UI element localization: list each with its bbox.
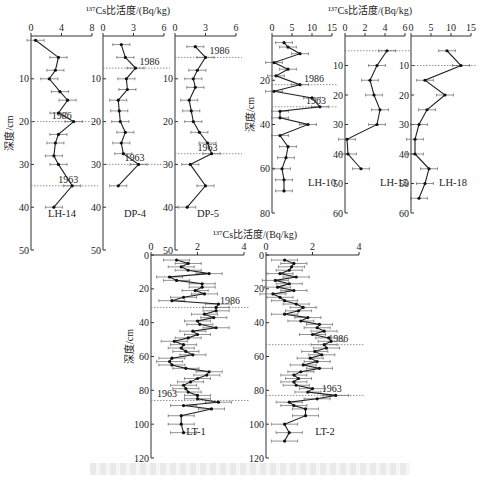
data-point <box>318 323 321 326</box>
panel-lt-1: 024020406080100120深度/cm19861963LT-1 <box>123 241 250 464</box>
data-point <box>282 189 285 192</box>
data-point <box>196 333 199 336</box>
y-tick-label: 10 <box>399 60 409 71</box>
data-point <box>292 262 295 265</box>
data-point <box>212 316 215 319</box>
data-point <box>278 272 281 275</box>
y-tick-label: 30 <box>19 159 29 170</box>
data-point <box>427 167 430 170</box>
panel-label: LH-14 <box>48 208 77 219</box>
data-point <box>306 390 309 393</box>
y-tick-label: 20 <box>260 75 270 86</box>
data-point <box>283 258 286 261</box>
data-point <box>375 123 378 126</box>
y-tick-label: 20 <box>91 116 101 127</box>
data-point <box>186 206 189 209</box>
data-point <box>71 184 74 187</box>
y-tick-label: 40 <box>254 317 264 328</box>
data-point <box>196 69 199 72</box>
data-point <box>299 319 302 322</box>
data-point <box>278 134 281 137</box>
y-tick-label: 50 <box>163 245 173 256</box>
y-tick-label: 80 <box>139 385 149 396</box>
data-point <box>57 133 60 136</box>
data-point <box>292 374 295 377</box>
data-point <box>57 56 60 59</box>
y-tick-label: 60 <box>254 351 264 362</box>
top-right-axis-title: ¹³⁷Cs比活度/(Bq/kg) <box>328 4 412 17</box>
data-point <box>302 363 305 366</box>
data-point <box>117 184 120 187</box>
y-tick-label: 40 <box>19 202 29 213</box>
y-tick-label: 10 <box>333 60 343 71</box>
data-point <box>425 108 428 111</box>
x-tick-label: 5 <box>429 22 434 33</box>
data-point <box>299 370 302 373</box>
data-point <box>192 120 195 123</box>
data-point <box>173 340 176 343</box>
data-point <box>194 86 197 89</box>
data-point <box>320 353 323 356</box>
data-point <box>182 404 185 407</box>
data-point <box>196 397 199 400</box>
data-point <box>346 152 349 155</box>
data-point <box>54 69 57 72</box>
x-tick-label: 0 <box>270 22 275 33</box>
data-point <box>272 61 275 64</box>
y-axis-label: 深度/cm <box>123 329 135 364</box>
x-tick-label: 0 <box>149 241 154 252</box>
data-point <box>201 286 204 289</box>
data-point <box>330 340 333 343</box>
x-tick-label: 0 <box>173 22 178 33</box>
data-point <box>417 197 420 200</box>
data-point <box>459 64 462 67</box>
data-point <box>208 272 211 275</box>
y-tick-label: 30 <box>91 159 101 170</box>
y-tick-label: 20 <box>399 90 409 101</box>
data-point <box>316 326 319 329</box>
data-point <box>334 394 337 397</box>
y-tick-label: 50 <box>91 245 101 256</box>
y-tick-label: 50 <box>333 178 343 189</box>
x-tick-label: 2 <box>363 22 368 33</box>
data-point <box>295 384 298 387</box>
x-tick-label: 4 <box>242 241 247 252</box>
y-tick-label: 0 <box>259 250 264 261</box>
data-point <box>217 302 220 305</box>
data-point <box>196 319 199 322</box>
data-point <box>57 163 60 166</box>
data-point <box>188 99 191 102</box>
data-point <box>198 131 201 134</box>
top-left-axis-title: ¹³⁷Cs比活度/(Bq/kg) <box>86 4 170 17</box>
y-tick-label: 100 <box>134 419 149 430</box>
x-tick-label: 6 <box>162 22 167 33</box>
data-point <box>311 333 314 336</box>
data-point <box>205 374 208 377</box>
data-point <box>288 401 291 404</box>
data-point <box>122 152 125 155</box>
data-point <box>288 282 291 285</box>
data-point <box>217 401 220 404</box>
y-tick-label: 40 <box>260 119 270 130</box>
data-point <box>175 279 178 282</box>
data-point <box>34 39 37 42</box>
data-point <box>215 309 218 312</box>
data-point <box>368 79 371 82</box>
data-point <box>372 93 375 96</box>
data-point <box>304 414 307 417</box>
y-tick-label: 30 <box>399 119 409 130</box>
data-point <box>318 367 321 370</box>
data-point <box>283 313 286 316</box>
data-point <box>292 289 295 292</box>
panel-lh-18: 051015102030405060LH-18 <box>399 22 477 219</box>
data-point <box>187 336 190 339</box>
y-tick-label: 60 <box>260 163 270 174</box>
data-point <box>168 360 171 363</box>
x-tick-label: 2 <box>195 241 200 252</box>
data-point <box>180 423 183 426</box>
data-point <box>191 330 194 333</box>
y-axis-label: 深度/cm <box>244 97 256 132</box>
panel-label: LT-1 <box>186 426 206 437</box>
data-point <box>180 346 183 349</box>
data-point <box>170 299 173 302</box>
